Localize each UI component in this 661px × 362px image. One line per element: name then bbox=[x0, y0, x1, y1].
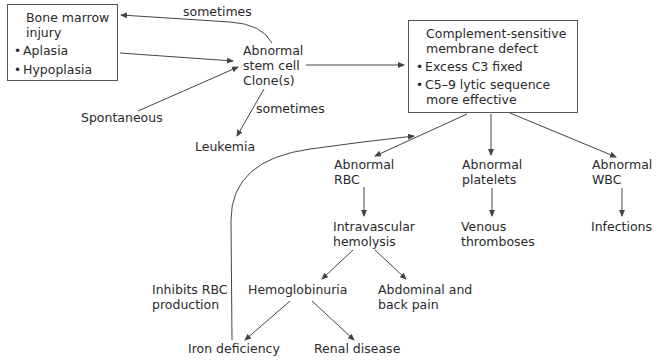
venous-line-2: thromboses bbox=[461, 234, 535, 249]
bullet-c5-9-continuation: more effective bbox=[426, 92, 517, 107]
bone-marrow-title-2: injury bbox=[26, 25, 61, 40]
bone-marrow-title-1: Bone marrow bbox=[26, 10, 109, 25]
node-spontaneous: Spontaneous bbox=[81, 110, 163, 125]
complement-title-2: membrane defect bbox=[426, 41, 538, 56]
node-intravascular-hemolysis: Intravascular hemolysis bbox=[333, 219, 415, 249]
arrow-complement-to-rbc bbox=[375, 114, 467, 156]
abnormal-rbc-line-2: RBC bbox=[334, 172, 394, 187]
bullet-excess-c3-text: Excess C3 fixed bbox=[425, 59, 523, 74]
node-abnormal-wbc: Abnormal WBC bbox=[592, 157, 652, 187]
node-iron-deficiency: Iron deficiency bbox=[188, 341, 280, 356]
node-leukemia: Leukemia bbox=[195, 139, 255, 154]
node-renal-disease: Renal disease bbox=[314, 341, 400, 356]
arrow-complement-to-wbc bbox=[510, 113, 616, 157]
bullet-aplasia: Aplasia bbox=[14, 43, 68, 59]
abnormal-wbc-line-1: Abnormal bbox=[592, 157, 652, 172]
node-venous-thromboses: Venous thromboses bbox=[461, 219, 535, 249]
abnormal-rbc-line-1: Abnormal bbox=[334, 157, 394, 172]
arrow-stem-to-bone-marrow bbox=[121, 15, 272, 43]
inhibits-line-2: production bbox=[152, 297, 228, 312]
arrow-hemolysis-to-abdominal bbox=[375, 250, 406, 279]
hemolysis-line-1: Intravascular bbox=[333, 219, 415, 234]
node-abnormal-platelets: Abnormal platelets bbox=[462, 157, 522, 187]
hemolysis-line-2: hemolysis bbox=[333, 234, 415, 249]
venous-line-1: Venous bbox=[461, 219, 535, 234]
complement-title-1: Complement-sensitive bbox=[426, 26, 566, 41]
bullet-excess-c3: Excess C3 fixed bbox=[416, 59, 523, 75]
node-abdominal-back-pain: Abdominal and back pain bbox=[378, 282, 472, 312]
abdominal-line-2: back pain bbox=[378, 297, 472, 312]
stem-cell-line-3: Clone(s) bbox=[243, 73, 303, 88]
arrow-bone-marrow-to-stem bbox=[120, 53, 233, 61]
node-hemoglobinuria: Hemoglobinuria bbox=[248, 282, 348, 297]
bullet-hypoplasia-text: Hypoplasia bbox=[23, 62, 92, 77]
node-abnormal-stem-cell: Abnormal stem cell Clone(s) bbox=[243, 43, 303, 88]
edge-label-sometimes-leukemia: sometimes bbox=[256, 101, 325, 116]
arrow-hemoglobinuria-to-iron bbox=[245, 301, 290, 340]
bullet-c5-9-text: C5–9 lytic sequence bbox=[425, 77, 550, 92]
abdominal-line-1: Abdominal and bbox=[378, 282, 472, 297]
inhibits-line-1: Inhibits RBC bbox=[152, 282, 228, 297]
stem-cell-line-2: stem cell bbox=[243, 58, 303, 73]
node-infections: Infections bbox=[591, 219, 652, 234]
bullet-c5-9: C5–9 lytic sequence bbox=[416, 77, 550, 93]
arrow-spontaneous-to-stem bbox=[138, 67, 238, 111]
stem-cell-line-1: Abnormal bbox=[243, 43, 303, 58]
node-abnormal-rbc: Abnormal RBC bbox=[334, 157, 394, 187]
edge-label-sometimes-top: sometimes bbox=[183, 4, 252, 19]
complement-defect-box: Complement-sensitive membrane defect Exc… bbox=[408, 20, 578, 113]
bone-marrow-injury-box: Bone marrow injury Aplasia Hypoplasia bbox=[7, 4, 118, 81]
bullet-aplasia-text: Aplasia bbox=[23, 43, 68, 58]
abnormal-platelets-line-1: Abnormal bbox=[462, 157, 522, 172]
node-inhibits-rbc-production: Inhibits RBC production bbox=[152, 282, 228, 312]
abnormal-wbc-line-2: WBC bbox=[592, 172, 652, 187]
abnormal-platelets-line-2: platelets bbox=[462, 172, 522, 187]
bullet-hypoplasia: Hypoplasia bbox=[14, 62, 92, 78]
arrow-hemolysis-to-hemoglobinuria bbox=[322, 250, 353, 279]
arrow-hemoglobinuria-to-renal bbox=[312, 301, 354, 340]
